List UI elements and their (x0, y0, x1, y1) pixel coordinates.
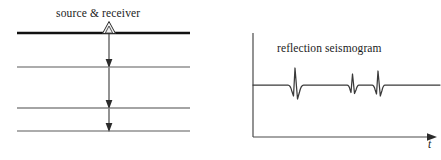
triangle-source-receiver-icon (103, 22, 116, 34)
time-axis-label: t (428, 138, 431, 150)
left-panel-earth-model (17, 22, 190, 133)
source-receiver-label: source & receiver (56, 7, 140, 19)
reflection-seismogram-label: reflection seismogram (277, 42, 382, 54)
seismogram-trace (253, 68, 440, 99)
figure-canvas (0, 0, 441, 160)
reflection-seismology-figure: source & receiver reflection seismogram … (0, 0, 441, 160)
